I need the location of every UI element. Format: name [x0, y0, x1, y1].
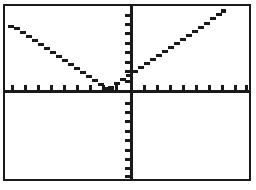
calculator-screen [0, 0, 256, 190]
graph-plot [5, 6, 249, 179]
y-axis [130, 6, 133, 179]
function-curve [8, 9, 226, 93]
x-axis [5, 90, 249, 93]
y-axis-ticks [125, 14, 130, 178]
x-axis-ticks [11, 85, 248, 90]
graph-frame [3, 4, 251, 181]
